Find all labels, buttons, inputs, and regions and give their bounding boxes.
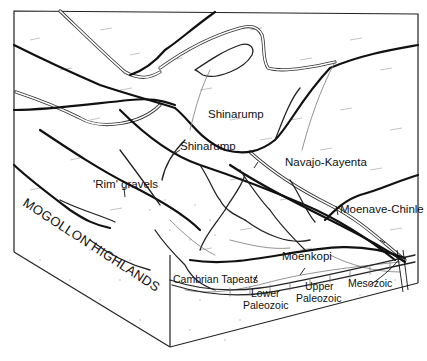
label-lower-paleozoic-line2: Paleozoic	[243, 299, 289, 311]
label-rim-gravels: 'Rim' gravels	[93, 178, 158, 190]
channel-margin-double-lines	[16, 11, 405, 260]
label-moenkopi: Moenkopi	[282, 250, 332, 262]
label-cambrian-tapeats: Cambrian Tapeats	[173, 273, 258, 285]
label-shinarump-upper: Shinarump	[208, 108, 264, 120]
label-lower-paleozoic-line1: Lower	[251, 287, 280, 299]
label-shinarump-lower: Shinarump	[180, 140, 236, 152]
label-moenave-chinle: Moenave-Chinle	[340, 203, 424, 215]
geological-block-diagram: Shinarump Shinarump Navajo-Kayenta 'Rim'…	[0, 0, 427, 361]
label-mogollon-highlands: MOGOLLON HIGHLANDS	[20, 195, 162, 295]
block-frame	[14, 11, 418, 347]
label-navajo-kayenta: Navajo-Kayenta	[285, 156, 367, 168]
label-mesozoic: Mesozoic	[348, 277, 392, 289]
label-upper-paleozoic-line2: Paleozoic	[296, 292, 342, 304]
label-upper-paleozoic-line1: Upper	[305, 280, 334, 292]
